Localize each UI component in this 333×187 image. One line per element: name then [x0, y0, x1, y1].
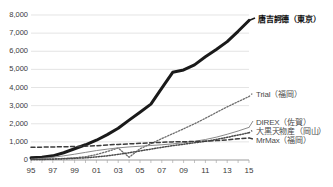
y-tick-7000: 7,000	[0, 28, 28, 37]
x-tick-15: 15	[239, 166, 259, 175]
x-tick-99: 99	[65, 166, 85, 175]
y-tick-6000: 6,000	[0, 46, 28, 55]
label-leader-lines	[249, 18, 255, 139]
x-tick-11: 11	[195, 166, 215, 175]
x-tick-07: 07	[152, 166, 172, 175]
series-line	[31, 97, 249, 160]
y-tick-0: 0	[0, 155, 28, 164]
series-label-mrmax: MrMax（福岡）	[256, 134, 311, 145]
x-tick-97: 97	[43, 166, 63, 175]
y-tick-5000: 5,000	[0, 64, 28, 73]
series-label-donki: 唐吉訶德（東京）	[258, 13, 320, 24]
x-tick-05: 05	[130, 166, 150, 175]
chart-container: 8,000 7,000 6,000 5,000 4,000 3,000 2,00…	[0, 0, 333, 187]
x-tick-09: 09	[174, 166, 194, 175]
y-tick-8000: 8,000	[0, 10, 28, 19]
x-tick-01: 01	[86, 166, 106, 175]
x-axis-tickmarks	[31, 160, 249, 163]
gridlines	[31, 15, 249, 160]
y-tick-1000: 1,000	[0, 137, 28, 146]
y-tick-3000: 3,000	[0, 101, 28, 110]
x-tick-03: 03	[108, 166, 128, 175]
data-series-group	[31, 20, 249, 159]
x-tick-95: 95	[21, 166, 41, 175]
x-tick-13: 13	[217, 166, 237, 175]
y-tick-2000: 2,000	[0, 119, 28, 128]
series-label-trial: Trial（福岡）	[256, 88, 301, 99]
y-tick-4000: 4,000	[0, 83, 28, 92]
